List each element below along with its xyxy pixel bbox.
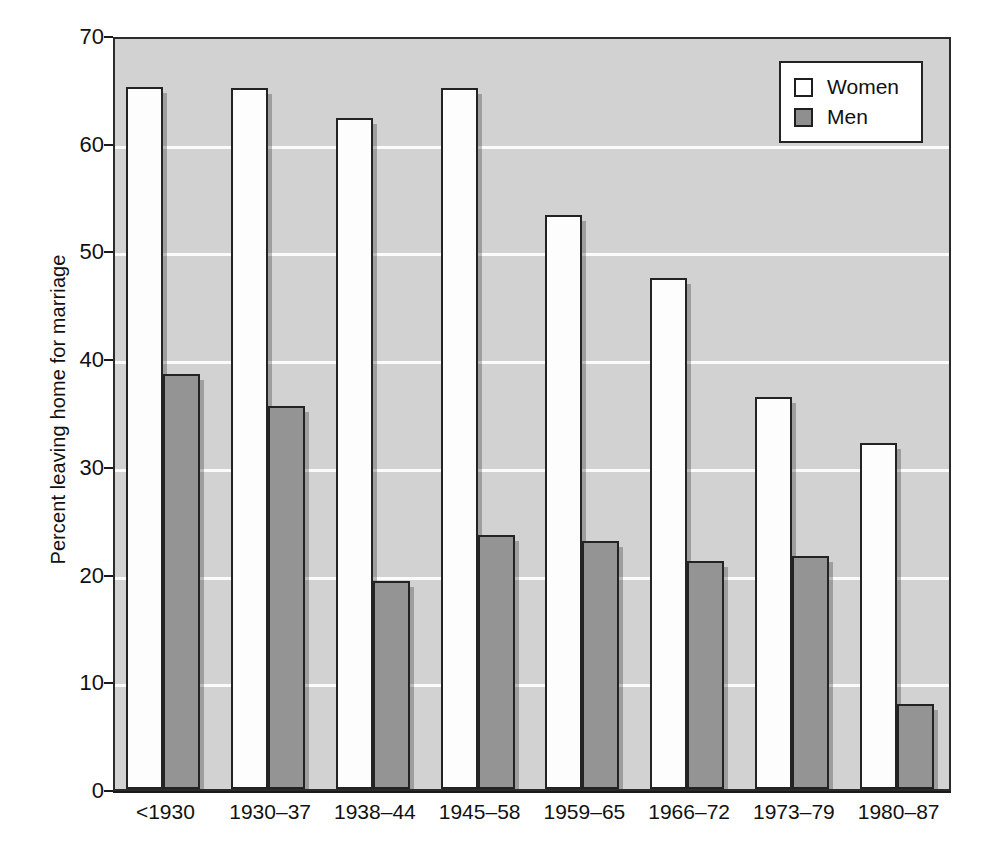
bar-group	[336, 39, 410, 789]
bar-women	[441, 88, 478, 789]
y-tick-label: 40	[44, 347, 104, 373]
bar-shadow	[304, 412, 309, 789]
bar-group	[126, 39, 200, 789]
bar-shadow	[933, 710, 938, 789]
x-axis-line	[113, 791, 951, 793]
x-tick-label: 1945–58	[439, 800, 521, 824]
y-tick-mark	[104, 144, 113, 146]
y-tick-label: 30	[44, 455, 104, 481]
bar-shadow	[514, 541, 519, 789]
bar-women	[126, 87, 163, 789]
bar-shadow	[723, 567, 728, 789]
y-tick-mark	[104, 790, 113, 792]
y-tick-label: 60	[44, 132, 104, 158]
bar-women	[650, 278, 687, 789]
bar-women	[231, 88, 268, 789]
bar-chart-figure: Percent leaving home for marriage 010203…	[0, 0, 982, 855]
y-axis-tick-labels: 010203040506070	[44, 0, 104, 855]
bar-men	[163, 374, 200, 789]
bar-women	[545, 215, 582, 789]
y-tick-mark	[104, 36, 113, 38]
y-tick-mark	[104, 359, 113, 361]
bar-group	[441, 39, 515, 789]
bar-men	[897, 704, 934, 789]
x-tick-label: 1930–37	[229, 800, 311, 824]
bar-women	[860, 443, 897, 789]
y-tick-mark	[104, 467, 113, 469]
y-tick-label: 70	[44, 24, 104, 50]
bar-group	[231, 39, 305, 789]
legend: Women Men	[779, 61, 923, 143]
legend-label-women: Women	[827, 75, 899, 99]
bar-shadow	[828, 562, 833, 789]
y-tick-mark	[104, 682, 113, 684]
y-tick-mark	[104, 251, 113, 253]
x-tick-label: <1930	[136, 800, 195, 824]
bar-men	[687, 561, 724, 789]
x-tick-label: 1959–65	[543, 800, 625, 824]
y-tick-label: 10	[44, 670, 104, 696]
bar-men	[373, 581, 410, 789]
plot-area: Women Men	[113, 37, 951, 791]
legend-swatch-women	[794, 78, 813, 97]
bar-men	[582, 541, 619, 789]
bar-group	[650, 39, 724, 789]
bar-shadow	[409, 587, 414, 789]
bar-group	[860, 39, 934, 789]
y-tick-label: 0	[44, 778, 104, 804]
x-axis-tick-labels: <19301930–371938–441945–581959–651966–72…	[113, 796, 951, 842]
bar-shadow	[618, 547, 623, 789]
x-tick-label: 1973–79	[753, 800, 835, 824]
legend-item-men: Men	[794, 102, 899, 132]
bar-group	[755, 39, 829, 789]
bar-men	[792, 556, 829, 789]
legend-label-men: Men	[827, 105, 868, 129]
bar-group	[545, 39, 619, 789]
legend-swatch-men	[794, 108, 813, 127]
bar-women	[336, 118, 373, 789]
x-tick-label: 1966–72	[648, 800, 730, 824]
y-tick-label: 20	[44, 563, 104, 589]
legend-item-women: Women	[794, 72, 899, 102]
bar-shadow	[199, 380, 204, 789]
y-tick-mark	[104, 575, 113, 577]
x-tick-label: 1938–44	[334, 800, 416, 824]
x-tick-label: 1980–87	[858, 800, 940, 824]
bar-men	[268, 406, 305, 789]
y-tick-label: 50	[44, 239, 104, 265]
bar-men	[478, 535, 515, 789]
bar-women	[755, 397, 792, 789]
